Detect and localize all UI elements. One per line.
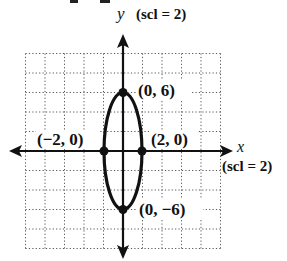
point-right xyxy=(138,147,147,156)
point-label-top: (0, 6) xyxy=(138,81,175,100)
y-axis-label: y xyxy=(115,4,125,23)
point-top xyxy=(119,88,128,97)
y-scale-label: (scl = 2) xyxy=(136,6,186,23)
ellipse-graph: y (scl = 2) x (scl = 2) (0, 6) (−2, 0) (… xyxy=(0,0,287,261)
point-label-left: (−2, 0) xyxy=(37,130,84,149)
point-label-right: (2, 0) xyxy=(151,130,188,149)
x-axis-label: x xyxy=(236,138,244,155)
x-scale-label: (scl = 2) xyxy=(222,158,272,175)
point-bottom xyxy=(119,205,128,214)
point-label-bottom: (0, −6) xyxy=(139,200,186,219)
cropped-text-fragment xyxy=(70,0,110,3)
point-left xyxy=(100,147,109,156)
y-axis xyxy=(117,34,129,259)
